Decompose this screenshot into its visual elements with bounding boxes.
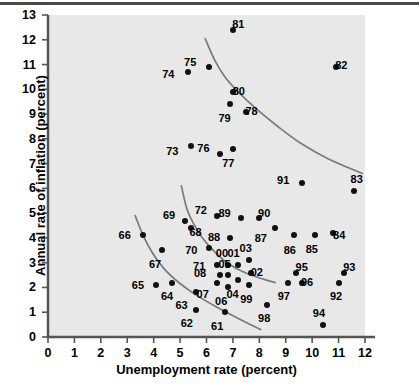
data-point-label-67: 67 xyxy=(149,259,161,270)
data-point-label-87: 87 xyxy=(255,233,267,244)
data-point-label-64: 64 xyxy=(161,291,173,302)
data-point-label-69: 69 xyxy=(163,210,175,221)
x-tick-label-9: 9 xyxy=(276,347,296,359)
x-tick-label-8: 8 xyxy=(249,347,269,359)
data-point-05 xyxy=(225,272,231,278)
data-point-67 xyxy=(159,247,165,253)
data-point-73 xyxy=(188,143,194,149)
data-point-label-06: 06 xyxy=(215,296,227,307)
data-point-label-84: 84 xyxy=(333,230,345,241)
data-point-label-78: 78 xyxy=(245,106,257,117)
data-point-label-63: 63 xyxy=(175,300,187,311)
data-point-label-62: 62 xyxy=(181,318,193,329)
data-point-label-82: 82 xyxy=(335,60,347,71)
data-point-label-99: 99 xyxy=(240,294,252,305)
data-point-76 xyxy=(217,151,223,157)
data-point-77 xyxy=(230,146,236,152)
data-point-label-08: 08 xyxy=(194,268,206,279)
data-point-label-04: 04 xyxy=(226,289,238,300)
data-point-89 xyxy=(238,215,244,221)
data-point-label-73: 73 xyxy=(166,146,178,157)
data-point-62 xyxy=(193,307,199,313)
x-axis-title: Unemployment rate (percent) xyxy=(48,362,365,377)
data-point-label-98: 98 xyxy=(258,313,270,324)
data-point-03 xyxy=(246,257,252,263)
data-point-74 xyxy=(185,69,191,75)
data-point-label-79: 79 xyxy=(218,113,230,124)
data-point-08 xyxy=(217,272,223,278)
data-point-label-80: 80 xyxy=(233,86,245,97)
x-tick-label-12: 12 xyxy=(355,347,375,359)
data-point-label-89: 89 xyxy=(218,208,230,219)
data-point-label-88: 88 xyxy=(208,232,220,243)
x-tick-label-5: 5 xyxy=(170,347,190,359)
data-point-99 xyxy=(246,282,252,288)
y-axis-title: Annual rate of inflation (percent) xyxy=(33,46,48,306)
x-tick-label-3: 3 xyxy=(117,347,137,359)
data-point-label-72: 72 xyxy=(195,205,207,216)
data-point-label-94: 94 xyxy=(313,308,325,319)
axis-lines xyxy=(47,15,375,337)
y-tick-label-1: 1 xyxy=(10,306,36,318)
data-point-label-97: 97 xyxy=(278,291,290,302)
data-point-label-83: 83 xyxy=(351,174,363,185)
y-tick-label-0: 0 xyxy=(10,331,36,343)
x-tick-label-4: 4 xyxy=(144,347,164,359)
data-point-label-77: 77 xyxy=(222,158,234,169)
data-point-label-03: 03 xyxy=(240,243,252,254)
x-tick-label-1: 1 xyxy=(64,347,84,359)
data-point-label-90: 90 xyxy=(258,208,270,219)
data-point-label-75: 75 xyxy=(184,57,196,68)
x-tick-label-6: 6 xyxy=(197,347,217,359)
data-point-label-68: 68 xyxy=(189,227,201,238)
data-point-07 xyxy=(214,280,220,286)
x-tick-label-11: 11 xyxy=(329,347,349,359)
data-point-label-05: 05 xyxy=(218,259,230,270)
data-point-label-86: 86 xyxy=(284,245,296,256)
data-point-label-02: 02 xyxy=(251,267,263,278)
data-point-label-66: 66 xyxy=(119,230,131,241)
data-point-label-61: 61 xyxy=(211,321,223,332)
data-point-label-93: 93 xyxy=(343,262,355,273)
data-point-label-91: 91 xyxy=(277,175,289,186)
data-point-label-76: 76 xyxy=(197,143,209,154)
data-point-label-07: 07 xyxy=(197,289,209,300)
data-point-label-96: 96 xyxy=(301,277,313,288)
data-point-label-74: 74 xyxy=(162,69,174,80)
x-tick-label-2: 2 xyxy=(91,347,111,359)
y-tick-label-12: 12 xyxy=(10,34,36,46)
data-point-94 xyxy=(320,322,326,328)
data-point-label-85: 85 xyxy=(306,244,318,255)
data-point-69 xyxy=(182,218,188,224)
data-point-label-65: 65 xyxy=(132,280,144,291)
data-point-92 xyxy=(336,280,342,286)
data-point-64 xyxy=(169,280,175,286)
x-tick-label-0: 0 xyxy=(38,347,58,359)
data-point-label-95: 95 xyxy=(296,262,308,273)
data-point-label-81: 81 xyxy=(232,19,244,30)
x-tick-label-10: 10 xyxy=(302,347,322,359)
y-tick-label-13: 13 xyxy=(10,9,36,21)
phillips-curve-figure: 012345678910111213 0123456789101112 6162… xyxy=(0,0,419,384)
data-point-70 xyxy=(206,245,212,251)
x-tick-label-7: 7 xyxy=(223,347,243,359)
data-point-label-70: 70 xyxy=(185,245,197,256)
data-point-97 xyxy=(285,280,291,286)
data-point-label-92: 92 xyxy=(330,291,342,302)
